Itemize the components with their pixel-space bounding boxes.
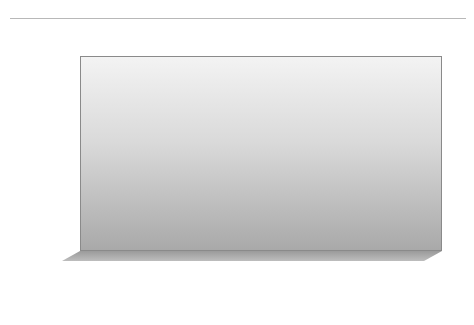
top-rule <box>10 18 466 19</box>
plot-floor <box>62 251 442 261</box>
plot-area <box>80 56 442 251</box>
